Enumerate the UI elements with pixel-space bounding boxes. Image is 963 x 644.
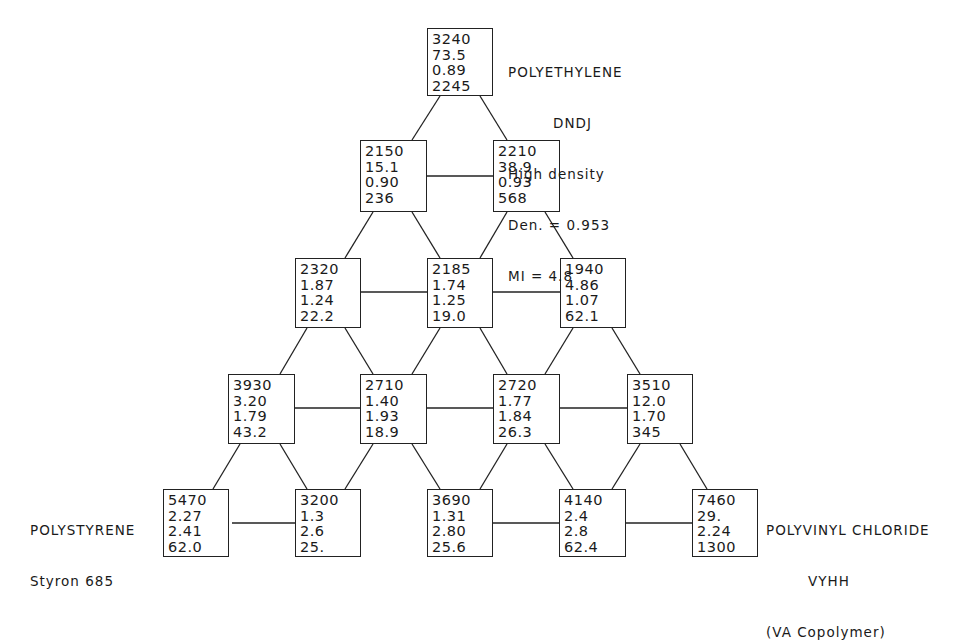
node-value: 2.41 [168,524,228,540]
node-value: 62.0 [168,540,228,556]
label-line: VYHH [766,573,930,590]
label-line: DNDJ [508,115,623,132]
label-polyvinyl-chloride: POLYVINYL CHLORIDE VYHH (VA Copolymer) [766,488,930,644]
node-value: 2.80 [432,524,492,540]
node-value: 3240 [432,32,492,48]
node-polystyrene-vertex: 5470 2.27 2.41 62.0 [163,489,229,557]
label-line: (VA Copolymer) [766,624,930,641]
node-value: 73.5 [432,48,492,64]
node-value: 0.90 [365,175,426,191]
label-polystyrene: POLYSTYRENE Styron 685 [30,488,135,607]
node-r4-c1: 3930 3.20 1.79 43.2 [228,374,295,444]
label-line: MI = 4.8 [508,268,623,285]
node-r4-c2: 2710 1.40 1.93 18.9 [360,374,427,444]
node-value: 2245 [432,79,492,95]
node-value: 43.2 [233,425,294,441]
node-value: 2.4 [564,509,625,525]
node-value: 2185 [432,262,492,278]
node-value: 1.24 [300,293,360,309]
node-value: 1.87 [300,278,360,294]
node-value: 1300 [697,540,757,556]
node-value: 2.6 [300,524,360,540]
node-value: 1.74 [432,278,492,294]
node-value: 1.77 [498,394,559,410]
node-pvc-vertex: 7460 29. 2.24 1300 [692,489,758,557]
node-value: 1.70 [632,409,692,425]
node-value: 2720 [498,378,559,394]
node-polyethylene-vertex: 3240 73.5 0.89 2245 [427,28,493,96]
label-line: POLYVINYL CHLORIDE [766,522,930,539]
node-value: 29. [697,509,757,525]
label-line: High density [508,166,623,183]
node-value: 15.1 [365,160,426,176]
node-value: 3690 [432,493,492,509]
node-value: 7460 [697,493,757,509]
node-value: 1.93 [365,409,426,425]
label-line: POLYSTYRENE [30,522,135,539]
node-r2-c1: 2150 15.1 0.90 236 [360,140,427,212]
node-r4-c3: 2720 1.77 1.84 26.3 [493,374,560,444]
node-r5-c2: 3200 1.3 2.6 25. [295,489,361,557]
node-value: 3.20 [233,394,294,410]
node-value: 1.79 [233,409,294,425]
node-value: 1.3 [300,509,360,525]
node-r5-c4: 4140 2.4 2.8 62.4 [559,489,626,557]
node-value: 1.31 [432,509,492,525]
node-value: 2.27 [168,509,228,525]
node-value: 3930 [233,378,294,394]
node-value: 2150 [365,144,426,160]
node-value: 345 [632,425,692,441]
node-value: 3510 [632,378,692,394]
node-value: 1.40 [365,394,426,410]
node-value: 12.0 [632,394,692,410]
node-value: 26.3 [498,425,559,441]
node-value: 2710 [365,378,426,394]
label-line: Den. = 0.953 [508,217,623,234]
label-polyethylene: POLYETHYLENE DNDJ High density Den. = 0.… [508,30,623,302]
node-r5-c3: 3690 1.31 2.80 25.6 [427,489,493,557]
node-value: 62.1 [565,309,625,325]
node-value: 4140 [564,493,625,509]
node-value: 236 [365,191,426,207]
node-value: 0.89 [432,63,492,79]
node-value: 1.84 [498,409,559,425]
node-value: 2.8 [564,524,625,540]
node-r4-c4: 3510 12.0 1.70 345 [627,374,693,444]
node-r3-c2: 2185 1.74 1.25 19.0 [427,258,493,328]
node-value: 2.24 [697,524,757,540]
node-value: 19.0 [432,309,492,325]
label-line: Styron 685 [30,573,135,590]
label-line: POLYETHYLENE [508,64,623,81]
node-r3-c1: 2320 1.87 1.24 22.2 [295,258,361,328]
node-value: 1.25 [432,293,492,309]
node-value: 2320 [300,262,360,278]
node-value: 5470 [168,493,228,509]
node-value: 22.2 [300,309,360,325]
node-value: 25. [300,540,360,556]
node-value: 3200 [300,493,360,509]
node-value: 18.9 [365,425,426,441]
node-value: 25.6 [432,540,492,556]
node-value: 62.4 [564,540,625,556]
